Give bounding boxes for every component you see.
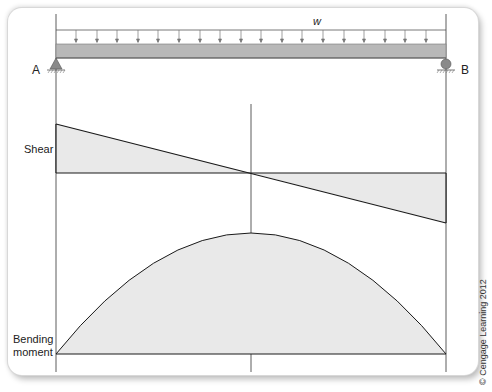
distributed-load-w [56,30,446,43]
load-label-w: w [313,15,321,28]
beam-diagram [0,0,492,392]
support-label-b: B [461,64,469,77]
moment-label-line2: moment [13,346,53,359]
copyright-notice: © Cengage Learning 2012 [478,279,488,385]
shear-label: Shear [24,143,53,156]
beam [56,44,446,58]
support-label-a: A [32,64,40,77]
bending-moment-diagram [56,233,446,354]
moment-label-line1: Bending [13,333,53,346]
